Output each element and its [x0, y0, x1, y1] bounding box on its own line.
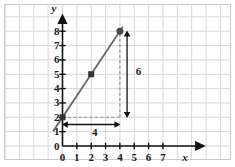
coordinate-plane-svg	[0, 0, 235, 167]
y-tick-1: 1	[48, 126, 60, 137]
graph-figure: 01234567012345678 x y 6 4	[0, 0, 235, 167]
y-tick-8: 8	[48, 26, 60, 37]
y-tick-0: 0	[48, 141, 60, 152]
grid-lines	[5, 5, 230, 159]
x-tick-5: 5	[128, 152, 140, 163]
y-tick-5: 5	[48, 69, 60, 80]
x-tick-1: 1	[71, 152, 83, 163]
y-tick-4: 4	[48, 83, 60, 94]
x-tick-6: 6	[143, 152, 155, 163]
x-tick-3: 3	[100, 152, 112, 163]
y-tick-3: 3	[48, 97, 60, 108]
x-tick-0: 0	[57, 152, 69, 163]
rise-annotation-label: 6	[136, 66, 142, 77]
axes	[63, 19, 201, 146]
run-annotation-label: 4	[92, 127, 98, 138]
x-tick-2: 2	[85, 152, 97, 163]
x-tick-4: 4	[114, 152, 126, 163]
y-tick-7: 7	[48, 40, 60, 51]
y-axis-label: y	[52, 3, 57, 14]
x-tick-7: 7	[157, 152, 169, 163]
y-tick-6: 6	[48, 54, 60, 65]
x-axis-label: x	[182, 152, 188, 163]
y-tick-2: 2	[48, 112, 60, 123]
plot-frame	[5, 5, 231, 160]
